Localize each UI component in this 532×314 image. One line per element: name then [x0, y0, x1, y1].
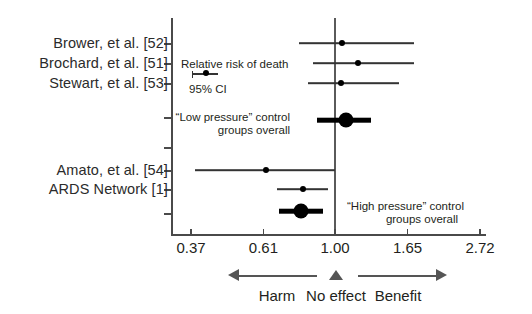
x-axis-tick: [407, 229, 409, 235]
row-label-amato: Amato, et al. [54]: [57, 162, 168, 178]
x-axis-tick: [263, 229, 265, 235]
no-effect-label: No effect: [306, 287, 366, 304]
x-axis-tick-label: 0.61: [249, 239, 278, 256]
study-point-estimate-marker: [355, 60, 361, 66]
y-axis-tick: [164, 147, 172, 149]
direction-legend: Harm No effect Benefit: [0, 265, 532, 314]
x-axis-tick-label: 1.65: [393, 239, 422, 256]
study-confidence-interval: [299, 42, 414, 44]
row-label-brower: Brower, et al. [52]: [53, 35, 168, 51]
row-label-brochard: Brochard, et al. [51]: [39, 55, 168, 71]
x-axis-spine: [171, 234, 486, 236]
study-confidence-interval: [308, 82, 398, 84]
x-axis-tick: [479, 229, 481, 235]
study-confidence-interval: [313, 62, 413, 64]
x-axis-tick: [190, 229, 192, 235]
summary-point-estimate-marker: [339, 113, 354, 128]
summary-high-pressure-label-line2: groups overall: [347, 212, 497, 226]
x-axis-tick-label: 2.72: [465, 239, 494, 256]
forest-plot: Brower, et al. [52] Brochard, et al. [51…: [0, 0, 532, 314]
study-point-estimate-marker: [263, 167, 269, 173]
x-axis-tick-label: 0.37: [176, 239, 205, 256]
study-point-estimate-marker: [338, 80, 344, 86]
summary-low-pressure-label-line2: groups overall: [0, 123, 290, 137]
no-effect-marker-icon: [329, 270, 343, 280]
null-effect-reference-line: [334, 18, 336, 235]
harm-arrow-head-icon: [228, 269, 239, 281]
harm-arrow-line: [239, 275, 317, 277]
study-point-estimate-marker: [339, 40, 345, 46]
callout-relative-risk-label: Relative risk of death: [181, 57, 288, 71]
benefit-arrow-line: [358, 275, 436, 277]
x-axis-tick: [334, 229, 336, 235]
y-axis-tick: [164, 213, 172, 215]
summary-point-estimate-marker: [293, 204, 308, 219]
study-point-estimate-marker: [300, 186, 306, 192]
row-label-stewart: Stewart, et al. [53]: [49, 75, 168, 91]
benefit-label: Benefit: [375, 287, 422, 304]
callout-ci-label: 95% CI: [189, 82, 227, 96]
benefit-arrow-head-icon: [436, 269, 447, 281]
row-label-ards: ARDS Network [1]: [49, 181, 168, 197]
x-axis-tick-label: 1.00: [320, 239, 349, 256]
harm-label: Harm: [259, 287, 296, 304]
